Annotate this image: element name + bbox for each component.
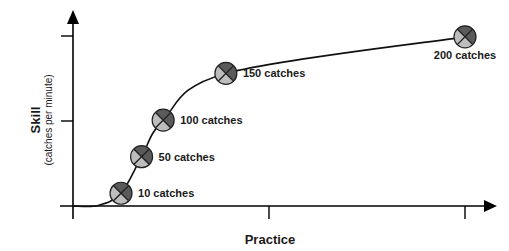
data-label: 50 catches (159, 151, 215, 163)
data-labels: 10 catches50 catches100 catches150 catch… (138, 49, 496, 199)
data-label: 100 catches (180, 114, 242, 126)
data-label: 150 catches (243, 67, 305, 79)
learning-curve-line (73, 37, 465, 207)
y-axis-subtitle: (catches per minute) (43, 74, 54, 165)
data-marker (131, 146, 153, 168)
data-marker (152, 109, 174, 131)
x-axis-title: Practice (245, 232, 296, 247)
data-marker (215, 62, 237, 84)
data-marker (110, 182, 132, 204)
data-label: 10 catches (138, 187, 194, 199)
y-axis-title: Skill (28, 107, 43, 134)
learning-curve-chart: 10 catches50 catches100 catches150 catch… (0, 0, 509, 251)
x-axis-arrow (484, 200, 497, 212)
y-axis-arrow (67, 10, 79, 24)
data-markers (110, 26, 476, 204)
data-label: 200 catches (434, 49, 496, 61)
data-marker (454, 26, 476, 48)
